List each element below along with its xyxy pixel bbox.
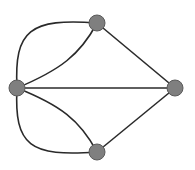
edge-left-top-outer [17,22,97,88]
node-top [89,15,105,31]
node-left [9,80,25,96]
edge-top-right [97,23,175,88]
graph-diagram [0,0,195,170]
edge-left-bottom-outer [17,88,97,153]
node-right [167,80,183,96]
node-bottom [89,144,105,160]
edge-bottom-right [97,88,175,152]
edges [17,22,175,153]
